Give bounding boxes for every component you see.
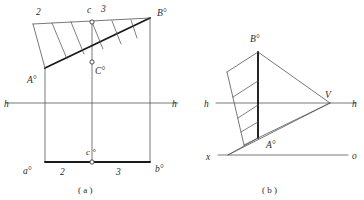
figure-b-hatch-line-1	[233, 81, 258, 97]
label-a-a-lower: a°	[23, 166, 32, 176]
figure-a-hatch-line-5	[131, 20, 137, 38]
label-a-a-upper: A°	[26, 75, 37, 85]
label-b-b-upper: B°	[250, 34, 260, 44]
figure-a-point-c-bottom-marker	[90, 160, 94, 164]
figure-a-point-c-mid-marker	[90, 60, 94, 64]
figure-a-caption: ( a )	[78, 185, 93, 195]
label-a-h-right: h	[172, 99, 177, 109]
figure-b-trace-v-to-ground	[228, 103, 330, 155]
label-b-v-point: V	[325, 90, 332, 100]
label-a-c-mid: C°	[95, 66, 105, 76]
label-b-h-left: h	[204, 99, 209, 109]
figure-a-hatch-line-1	[52, 23, 67, 59]
label-b-a-upper: A°	[265, 140, 276, 150]
figure-b-group: B° V h h A° x o ( b )	[204, 34, 357, 195]
label-a-h-left: h	[4, 99, 9, 109]
figure-b-caption: ( b )	[262, 185, 277, 195]
label-a-b-upper: B°	[157, 8, 167, 18]
label-b-o-right: o	[352, 151, 357, 161]
figure-b-hatch-line-3	[241, 122, 258, 132]
label-b-h-right: h	[352, 99, 357, 109]
label-a-c-top: c	[87, 5, 92, 15]
technical-drawing-canvas: 2 c 3 B° C° A° h h a° 2 c ° 3 b° ( a )	[0, 0, 364, 200]
label-b-x-left: x	[205, 152, 211, 162]
label-a-three-top: 3	[100, 4, 106, 14]
figure-a-point-c-top-marker	[90, 20, 94, 24]
geometry-figure-svg: 2 c 3 B° C° A° h h a° 2 c ° 3 b° ( a )	[0, 0, 364, 200]
label-a-three-bottom: 3	[115, 167, 121, 177]
label-a-b-lower: b°	[155, 164, 164, 174]
figure-a-strip-left-edge	[33, 24, 45, 68]
figure-a-inclined-line-a-to-b	[45, 18, 150, 68]
figure-b-strip-top-edge	[227, 52, 258, 72]
label-a-two-top: 2	[36, 7, 41, 17]
figure-a-group: 2 c 3 B° C° A° h h a° 2 c ° 3 b° ( a )	[4, 4, 178, 195]
figure-b-edge-b-to-v	[258, 52, 330, 103]
figure-a-hatch-line-2	[71, 22, 84, 54]
figure-b-strip-left-edge	[227, 72, 244, 145]
figure-b-hatch-line-2	[238, 105, 258, 118]
label-a-c-bottom: c °	[86, 147, 96, 157]
label-a-two-bottom: 2	[60, 167, 65, 177]
